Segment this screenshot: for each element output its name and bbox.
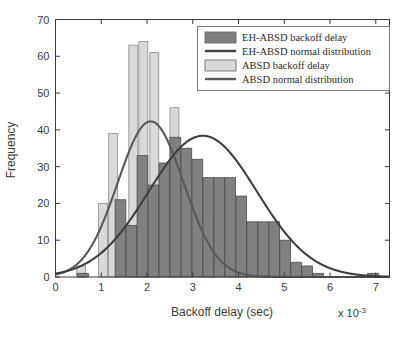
eh-absd-bar xyxy=(225,178,236,277)
eh-absd-bar xyxy=(269,222,280,277)
eh-absd-bar xyxy=(302,266,313,277)
y-tick-label: 70 xyxy=(37,14,49,26)
eh-absd-bar xyxy=(258,222,269,277)
legend: EH-ABSD backoff delayEH-ABSD normal dist… xyxy=(198,27,390,91)
chart-figure: 01234567 010203040506070 Backoff delay (… xyxy=(0,0,405,337)
y-tick-label: 60 xyxy=(37,50,49,62)
x-tick-label: 3 xyxy=(190,281,196,293)
y-tick-label: 40 xyxy=(37,124,49,136)
eh-absd-bar xyxy=(291,262,302,277)
backoff-delay-histogram: 01234567 010203040506070 Backoff delay (… xyxy=(0,0,405,337)
y-tick-label: 10 xyxy=(37,234,49,246)
legend-label: EH-ABSD normal distribution xyxy=(242,46,372,57)
eh-absd-bar xyxy=(203,178,214,277)
eh-absd-bar xyxy=(181,148,192,277)
y-tick-label: 30 xyxy=(37,161,49,173)
y-axis-title: Frequency xyxy=(4,122,18,179)
eh-absd-bar xyxy=(137,156,148,277)
eh-absd-bar xyxy=(159,163,170,277)
multiplier-exponent: -3 xyxy=(359,306,367,315)
x-tick-label: 1 xyxy=(98,281,104,293)
eh-absd-bar xyxy=(236,196,247,277)
eh-absd-bar xyxy=(280,240,291,277)
multiplier-base: x 10 xyxy=(338,307,359,319)
legend-label: ABSD normal distribution xyxy=(242,74,354,85)
x-tick-label: 5 xyxy=(281,281,287,293)
legend-swatch xyxy=(205,60,236,71)
eh-absd-bar xyxy=(148,185,159,277)
y-tick-label: 20 xyxy=(37,197,49,209)
x-tick-label: 7 xyxy=(373,281,379,293)
eh-absd-bar xyxy=(126,226,137,278)
y-tick-label: 0 xyxy=(43,271,49,283)
legend-label: ABSD backoff delay xyxy=(242,60,331,71)
x-tick-label: 6 xyxy=(327,281,333,293)
x-tick-label: 4 xyxy=(235,281,241,293)
eh-absd-bar xyxy=(247,222,258,277)
legend-swatch xyxy=(205,32,236,43)
legend-label: EH-ABSD backoff delay xyxy=(242,32,348,43)
x-axis-title: Backoff delay (sec) xyxy=(171,305,273,319)
x-tick-label: 0 xyxy=(52,281,58,293)
eh-absd-bar xyxy=(78,273,89,277)
y-tick-label: 50 xyxy=(37,87,49,99)
x-tick-label: 2 xyxy=(144,281,150,293)
